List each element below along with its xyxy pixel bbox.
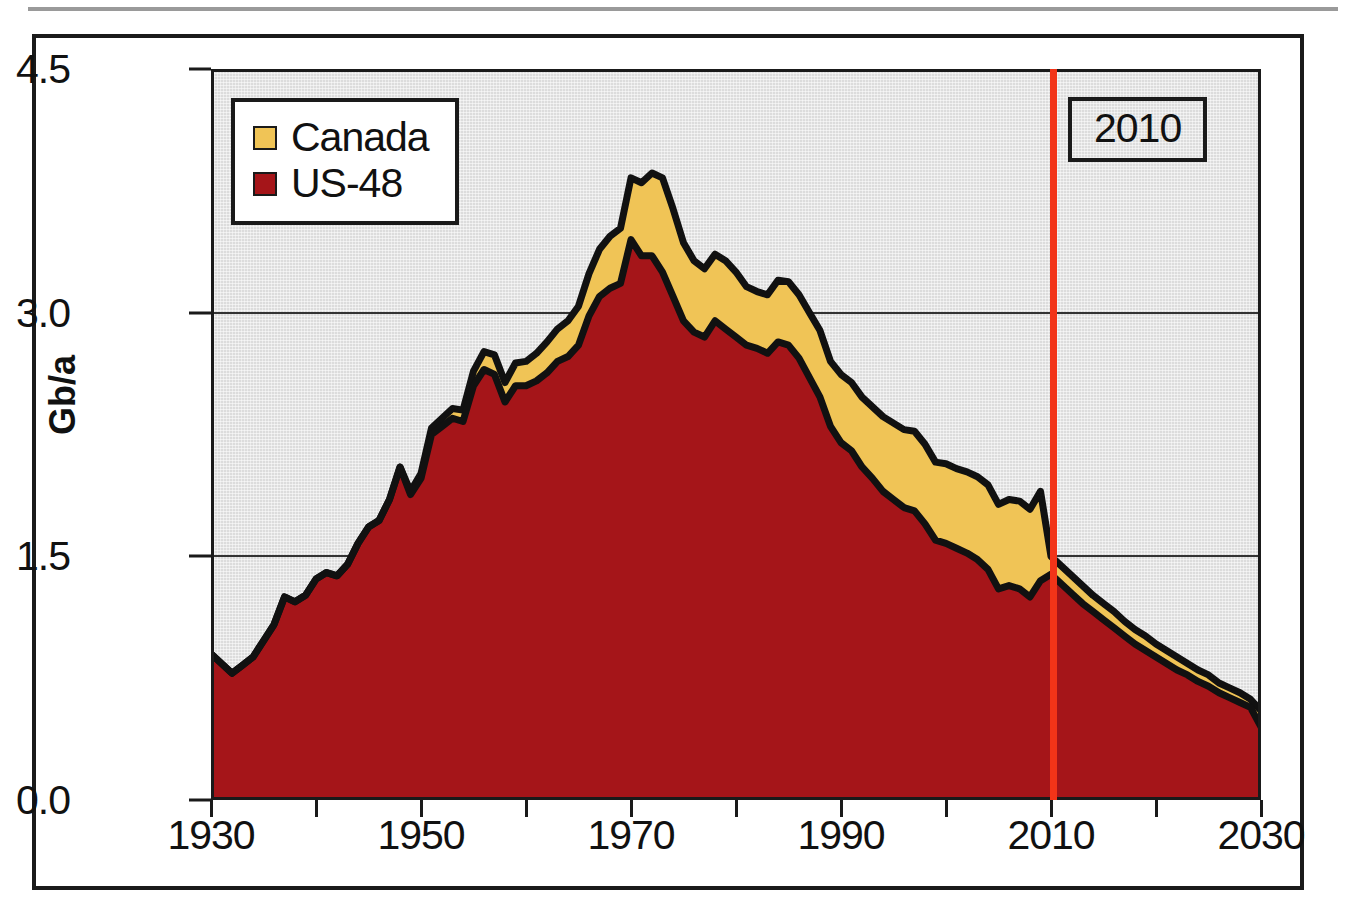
x-tick-label-2010: 2010 bbox=[1007, 812, 1094, 859]
x-tick-mark bbox=[945, 800, 948, 817]
x-tick-mark bbox=[630, 800, 633, 817]
y-tick-label-3: 3.0 bbox=[16, 289, 70, 336]
legend-item-us48: US-48 bbox=[253, 163, 429, 204]
x-tick-mark bbox=[1155, 800, 1158, 817]
chart-figure: Gb/a 0.01.53.04.5 1930195019701990201020… bbox=[0, 0, 1349, 917]
year-marker-label: 2010 bbox=[1094, 105, 1181, 151]
y-tick-mark bbox=[189, 555, 211, 558]
x-tick-label-1950: 1950 bbox=[377, 812, 464, 859]
y-tick-mark bbox=[189, 799, 211, 802]
x-tick-mark bbox=[210, 800, 213, 817]
legend-swatch-canada-icon bbox=[253, 126, 277, 150]
y-tick-label-1-5: 1.5 bbox=[16, 533, 70, 580]
chart-legend: Canada US-48 bbox=[231, 98, 459, 225]
x-tick-mark bbox=[315, 800, 318, 817]
y-tick-label-4-5: 4.5 bbox=[16, 46, 70, 93]
top-divider-rule bbox=[28, 7, 1338, 11]
x-tick-mark bbox=[1260, 800, 1263, 817]
x-tick-mark bbox=[525, 800, 528, 817]
x-tick-mark bbox=[735, 800, 738, 817]
x-tick-label-2030: 2030 bbox=[1217, 812, 1304, 859]
y-tick-label-0: 0.0 bbox=[16, 777, 70, 824]
x-tick-label-1930: 1930 bbox=[167, 812, 254, 859]
x-tick-label-1990: 1990 bbox=[797, 812, 884, 859]
legend-label-us48: US-48 bbox=[291, 163, 402, 204]
x-tick-mark bbox=[420, 800, 423, 817]
x-tick-mark bbox=[1050, 800, 1053, 817]
y-axis-title: Gb/a bbox=[42, 355, 84, 435]
legend-item-canada: Canada bbox=[253, 117, 429, 158]
year-marker-box: 2010 bbox=[1068, 97, 1207, 162]
year-marker-line bbox=[1050, 69, 1057, 800]
x-tick-mark bbox=[840, 800, 843, 817]
y-tick-mark bbox=[189, 68, 211, 71]
legend-swatch-us48-icon bbox=[253, 172, 277, 196]
legend-label-canada: Canada bbox=[291, 117, 429, 158]
x-tick-label-1970: 1970 bbox=[587, 812, 674, 859]
y-tick-mark bbox=[189, 311, 211, 314]
